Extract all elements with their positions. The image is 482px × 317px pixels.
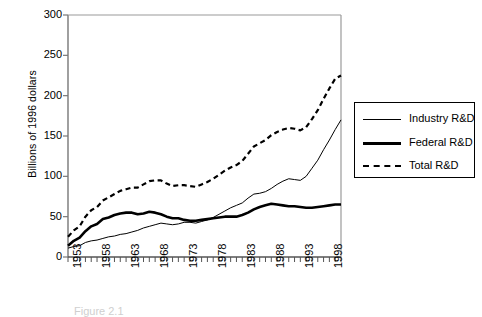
x-axis-tick-label: 1973 [188,244,199,268]
x-axis-tick-label: 1993 [304,244,315,268]
x-axis-tick-label: 1988 [275,244,286,268]
legend-swatch-industry-line [363,119,401,120]
figure-container: Billions of 1996 dollars 050100150200250… [0,0,482,317]
x-axis-tick-label: 1983 [246,244,257,268]
legend-label-industry: Industry R&D [409,112,474,125]
x-axis-tick-label: 1953 [72,244,83,268]
legend-item-total: Total R&D [355,155,476,177]
x-axis-tick-label: 1958 [101,244,112,268]
x-axis-tick-label: 1963 [130,244,141,268]
x-axis-tick-label: 1968 [159,244,170,268]
x-axis-tick-label: 1998 [333,244,344,268]
figure-caption: Figure 2.1 [74,305,124,317]
legend-label-total: Total R&D [409,159,459,172]
legend-swatch-total-line [363,165,401,167]
legend-swatch-federal-line [363,142,401,145]
legend: Industry R&D Federal R&D Total R&D [354,102,475,178]
legend-item-federal: Federal R&D [355,132,476,154]
x-axis-tick-label: 1978 [217,244,228,268]
legend-item-industry: Industry R&D [355,108,476,130]
legend-label-federal: Federal R&D [409,136,473,149]
